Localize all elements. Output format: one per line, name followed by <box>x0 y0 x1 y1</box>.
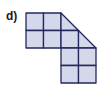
grid-square <box>79 48 97 66</box>
grid-square <box>79 66 97 84</box>
grid-square <box>26 31 44 49</box>
grid-square <box>44 13 62 31</box>
grid-triangle <box>61 13 79 31</box>
grid-square <box>26 13 44 31</box>
grid-square <box>61 66 79 84</box>
grid-square <box>61 31 79 49</box>
grid-triangle <box>79 31 97 49</box>
grid-square <box>61 48 79 66</box>
grid-shape-figure <box>0 0 105 91</box>
grid-square <box>44 31 62 49</box>
